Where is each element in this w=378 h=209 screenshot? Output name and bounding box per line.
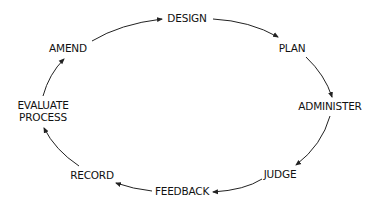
- node-label-line2: PROCESS: [17, 111, 68, 123]
- arrow-amend-to-design: [92, 19, 162, 41]
- node-judge: JUDGE: [264, 168, 297, 180]
- node-amend: AMEND: [49, 42, 87, 54]
- arrow-record-to-evaluate: [44, 128, 79, 166]
- node-design: DESIGN: [167, 12, 206, 24]
- arrow-feedback-to-record: [116, 183, 152, 191]
- arrow-administer-to-judge: [296, 116, 330, 165]
- node-label: FEEDBACK: [155, 185, 209, 197]
- node-label: PLAN: [279, 42, 306, 54]
- node-label-line1: EVALUATE: [17, 99, 68, 111]
- arrow-judge-to-feedback: [213, 179, 262, 192]
- node-feedback: FEEDBACK: [155, 185, 209, 197]
- node-label: AMEND: [49, 42, 87, 54]
- node-label: RECORD: [70, 169, 114, 181]
- arrow-plan-to-administer: [306, 57, 332, 97]
- node-label: DESIGN: [167, 12, 206, 24]
- node-plan: PLAN: [279, 42, 306, 54]
- node-record: RECORD: [70, 169, 114, 181]
- node-label: JUDGE: [264, 168, 297, 180]
- arrow-design-to-plan: [213, 19, 278, 37]
- node-label: ADMINISTER: [298, 100, 361, 112]
- cycle-diagram: DESIGN PLAN ADMINISTER JUDGE FEEDBACK RE…: [0, 0, 378, 209]
- node-administer: ADMINISTER: [298, 100, 361, 112]
- node-evaluate-process: EVALUATE PROCESS: [17, 99, 68, 123]
- arrow-evaluate-to-amend: [43, 59, 64, 96]
